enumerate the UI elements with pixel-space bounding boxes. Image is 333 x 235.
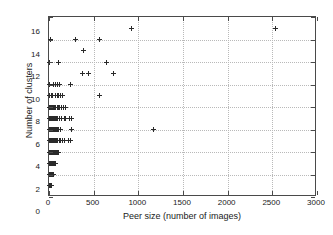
data-point bbox=[57, 82, 62, 87]
x-axis-tick bbox=[317, 191, 318, 195]
data-point bbox=[151, 127, 156, 132]
x-axis-tick-labels: 050010001500200025003000 bbox=[48, 198, 316, 212]
data-point bbox=[111, 71, 116, 76]
data-point bbox=[80, 71, 85, 76]
x-axis-tick-top bbox=[272, 17, 273, 21]
data-point bbox=[49, 116, 54, 121]
data-point bbox=[69, 127, 74, 132]
y-axis-tick-right bbox=[311, 85, 315, 86]
x-axis-tick-top bbox=[183, 17, 184, 21]
x-axis-tick-top bbox=[317, 17, 318, 21]
x-axis-tick-top bbox=[49, 17, 50, 21]
y-axis-title: Number of clusters bbox=[24, 21, 35, 181]
x-axis-tick bbox=[138, 191, 139, 195]
data-point bbox=[68, 82, 73, 87]
x-axis-tick bbox=[49, 191, 50, 195]
data-point bbox=[60, 93, 65, 98]
x-axis-tick-label: 500 bbox=[73, 198, 113, 207]
x-axis-tick-label: 2000 bbox=[207, 198, 247, 207]
data-point bbox=[273, 26, 278, 31]
y-axis-tick-label: 2 bbox=[12, 186, 40, 194]
y-axis-tick-right bbox=[311, 62, 315, 63]
y-axis-tick-right bbox=[311, 40, 315, 41]
data-point bbox=[68, 138, 73, 143]
y-axis-tick-right bbox=[311, 17, 315, 18]
data-point bbox=[56, 60, 61, 65]
x-axis-title: Peer size (number of images) bbox=[48, 211, 316, 222]
y-axis-tick bbox=[49, 85, 53, 86]
data-point bbox=[129, 26, 134, 31]
y-axis-tick bbox=[49, 62, 53, 63]
x-axis-tick-top bbox=[228, 17, 229, 21]
x-axis-tick bbox=[94, 191, 95, 195]
y-axis-tick-right bbox=[311, 175, 315, 176]
y-axis-tick-label: 0 bbox=[12, 208, 40, 216]
y-axis-tick-labels: 0246810121416 bbox=[0, 16, 44, 196]
data-point bbox=[81, 48, 86, 53]
x-axis-tick-label: 2500 bbox=[251, 198, 291, 207]
data-point bbox=[97, 37, 102, 42]
y-axis-tick bbox=[49, 152, 53, 153]
data-point bbox=[48, 183, 53, 188]
scatter-plot-figure: 0246810121416 050010001500200025003000 P… bbox=[0, 0, 333, 235]
x-axis-tick-label: 3000 bbox=[296, 198, 333, 207]
x-axis-tick-label: 0 bbox=[28, 198, 68, 207]
x-axis-tick bbox=[272, 191, 273, 195]
data-point bbox=[50, 138, 55, 143]
data-point bbox=[58, 127, 63, 132]
data-point bbox=[97, 93, 102, 98]
y-axis-tick bbox=[49, 107, 53, 108]
y-axis-tick-right bbox=[311, 107, 315, 108]
data-point bbox=[73, 37, 78, 42]
data-point bbox=[63, 105, 68, 110]
data-point bbox=[104, 60, 109, 65]
y-axis-tick bbox=[49, 40, 53, 41]
y-axis-tick-right bbox=[311, 130, 315, 131]
plot-area bbox=[48, 16, 316, 196]
x-axis-tick-label: 1000 bbox=[117, 198, 157, 207]
y-axis-tick bbox=[49, 175, 53, 176]
data-point bbox=[69, 116, 74, 121]
data-point bbox=[56, 150, 61, 155]
x-axis-tick bbox=[183, 191, 184, 195]
data-points-layer bbox=[49, 17, 315, 195]
data-point bbox=[51, 161, 56, 166]
x-axis-tick bbox=[228, 191, 229, 195]
y-axis-tick bbox=[49, 130, 53, 131]
x-axis-tick-top bbox=[138, 17, 139, 21]
y-axis-tick-right bbox=[311, 152, 315, 153]
x-axis-tick-top bbox=[94, 17, 95, 21]
x-axis-tick-label: 1500 bbox=[162, 198, 202, 207]
data-point bbox=[86, 71, 91, 76]
